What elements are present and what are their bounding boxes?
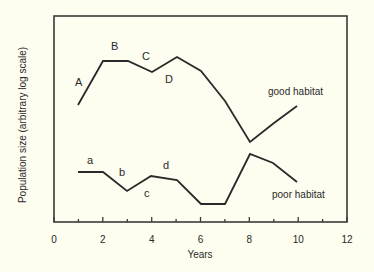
label-poor-habitat: poor habitat [272,189,325,200]
annotation-a: a [87,154,94,166]
y-axis-title: Population size (arbitrary log scale) [17,47,28,203]
x-tick-label: 4 [149,234,155,245]
annotation-c: c [144,187,150,199]
annotation-D: D [165,73,173,85]
annotation-A: A [75,76,83,88]
annotation-d: d [163,159,169,171]
annotation-C: C [142,50,150,62]
series-poor-habitat [78,154,297,204]
x-tick-label: 2 [100,234,106,245]
x-tick-label: 12 [341,234,353,245]
x-tick-label: 8 [247,234,253,245]
chart: 0 2 4 6 8 10 12 Years Population size (a… [0,0,374,272]
series-good-habitat [78,57,297,142]
x-tick-label: 10 [293,234,305,245]
annotation-b: b [119,166,125,178]
x-axis-title: Years [187,249,212,260]
x-tick-label: 0 [51,234,57,245]
label-good-habitat: good habitat [268,86,323,97]
x-tick-label: 6 [198,234,204,245]
annotation-B: B [111,40,118,52]
